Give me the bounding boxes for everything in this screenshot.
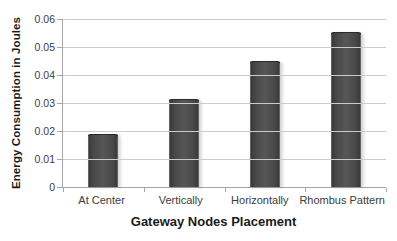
x-axis-tick-mark [144,188,145,192]
y-axis-tick-label: 0.03 [0,97,55,109]
gridline [63,131,386,132]
bar-chart: Energy Consumption in Joules 0.060.050.0… [0,0,397,241]
x-axis-tick-mark [225,188,226,192]
category-label: Horizontally [220,194,299,206]
y-axis-tick-mark [57,131,62,132]
x-axis-tick-mark [63,188,64,192]
y-axis-tick-label: 0.02 [0,125,55,137]
y-axis-tick-mark [57,47,62,48]
y-axis-tick-mark [57,159,62,160]
category-label: Vertically [141,194,220,206]
y-axis-tick-label: 0.05 [0,41,55,53]
gridline [63,19,386,20]
x-axis-category-labels: At CenterVerticallyHorizontallyRhombus P… [62,194,385,206]
plot-area [62,19,386,188]
bar-vertically [169,99,200,187]
y-axis-tick-mark [57,75,62,76]
y-axis-tick-mark [57,103,62,104]
gridline [63,47,386,48]
category-label: Rhombus Pattern [299,194,385,206]
y-axis-tick-label: 0 [0,181,55,193]
y-axis-tick-labels: 0.060.050.040.030.020.010 [0,0,57,241]
bar-horizontally [249,61,280,187]
y-axis-tick-label: 0.01 [0,153,55,165]
category-label: At Center [62,194,141,206]
y-axis-tick-label: 0.04 [0,69,55,81]
bar-at-center [88,134,119,187]
bar-rhombus-pattern [330,32,361,187]
y-axis-tick-mark [57,19,62,20]
gridline [63,103,386,104]
y-axis-tick-mark [57,187,62,188]
gridline [63,75,386,76]
x-axis-tick-mark [305,188,306,192]
y-axis-tick-label: 0.06 [0,13,55,25]
gridline [63,159,386,160]
x-axis-title: Gateway Nodes Placement [52,214,375,229]
x-axis-tick-mark [386,188,387,192]
